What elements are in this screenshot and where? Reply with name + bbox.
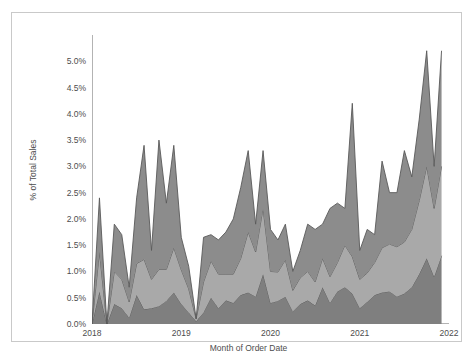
x-axis-tick-label: 2022 (440, 328, 459, 339)
x-axis-tick-label: 2019 (172, 328, 191, 339)
y-axis-tick-label: 2.0% (26, 214, 86, 224)
y-axis-tick-label: 5.0% (26, 56, 86, 66)
chart-page: 5.0%4.5%4.0%3.5%3.0%2.5%2.0%1.5%1.0%0.5%… (0, 0, 473, 355)
x-axis-tick-labels: 20182019202020212022 (12, 328, 473, 344)
x-axis-tick-label: 2020 (261, 328, 280, 339)
y-axis-tick-label: 1.5% (26, 240, 86, 250)
plot-area[interactable] (92, 35, 449, 324)
y-axis-tick-label: 4.0% (26, 109, 86, 119)
y-axis-tick-label: 4.5% (26, 83, 86, 93)
y-axis-title: % of Total Sales (28, 125, 38, 215)
visualization-frame: 5.0%4.5%4.0%3.5%3.0%2.5%2.0%1.5%1.0%0.5%… (11, 12, 462, 342)
x-axis-tick-label: 2018 (83, 328, 102, 339)
stacked-area-chart[interactable] (92, 35, 449, 324)
y-axis-tick-label: 1.0% (26, 266, 86, 276)
x-axis-tick-label: 2021 (350, 328, 369, 339)
y-axis-tick-label: 0.5% (26, 293, 86, 303)
x-axis-title: Month of Order Date (12, 343, 473, 353)
